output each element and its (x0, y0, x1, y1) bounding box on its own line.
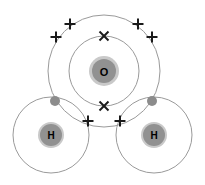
hydrogen-right-nucleus: H (141, 122, 167, 148)
oxygen-nucleus: O (89, 56, 119, 86)
hydrogen-left-nucleus: H (38, 122, 64, 148)
hydrogen-right-symbol-label: H (150, 130, 157, 141)
diagram-background (0, 0, 205, 185)
hydrogen-left-symbol-label: H (47, 130, 54, 141)
electron-dot-h-left (50, 96, 60, 106)
molecule-svg: O H H (0, 0, 205, 185)
electron-dot-h-right (147, 96, 157, 106)
dot-and-cross-diagram: O H H (0, 0, 205, 185)
oxygen-symbol-label: O (100, 66, 109, 78)
